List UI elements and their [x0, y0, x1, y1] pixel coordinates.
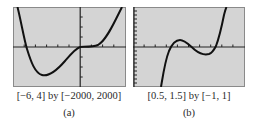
plot-b — [133, 7, 245, 87]
plot-a — [13, 7, 126, 87]
panel-label-a: (a) — [4, 107, 134, 118]
range-label-a: [−6, 4] by [−2000, 2000] — [4, 90, 134, 101]
range-label-b: [0.5, 1.5] by [−1, 1] — [124, 90, 254, 101]
panel-label-b: (b) — [124, 107, 254, 118]
